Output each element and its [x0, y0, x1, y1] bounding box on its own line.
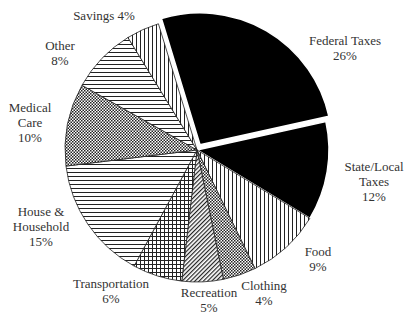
label-value: 12% — [344, 189, 403, 204]
label-recreation: Recreation 5% — [181, 285, 237, 312]
label-text: Other — [45, 38, 75, 53]
label-state-local-taxes: State/Local Taxes 12% — [344, 159, 403, 204]
label-value: 4% — [241, 293, 287, 308]
label-text: State/Local — [344, 159, 403, 174]
label-value: 9% — [305, 259, 332, 274]
label-value: 10% — [9, 130, 52, 145]
label-text: House & — [13, 204, 69, 219]
label-text: Recreation — [181, 285, 237, 300]
label-federal-taxes: Federal Taxes 26% — [309, 33, 381, 63]
label-savings: Savings 4% — [73, 8, 135, 23]
label-transportation: Transportation 6% — [73, 276, 149, 306]
label-food: Food 9% — [305, 244, 332, 274]
label-text: Care — [9, 115, 52, 130]
label-text: Household — [13, 219, 69, 234]
label-value: 6% — [73, 291, 149, 306]
label-text: Clothing — [241, 278, 287, 293]
label-text: Food — [305, 244, 332, 259]
label-text: Savings 4% — [73, 8, 135, 23]
label-value: 8% — [45, 53, 75, 68]
label-value: 5% — [181, 300, 237, 312]
label-text: Transportation — [73, 276, 149, 291]
label-clothing: Clothing 4% — [241, 278, 287, 308]
label-value: 15% — [13, 234, 69, 249]
label-medical-care: Medical Care 10% — [9, 100, 52, 145]
label-text: Medical — [9, 100, 52, 115]
label-text: Federal Taxes — [309, 33, 381, 48]
label-text: Taxes — [344, 174, 403, 189]
label-value: 26% — [309, 48, 381, 63]
label-other: Other 8% — [45, 38, 75, 68]
label-house-household: House & Household 15% — [13, 204, 69, 249]
